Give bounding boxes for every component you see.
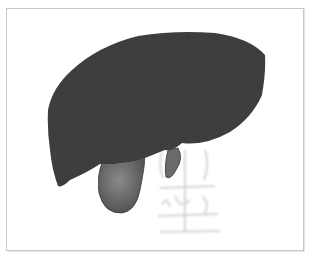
liver <box>48 32 265 186</box>
gallbladder <box>98 158 145 213</box>
liver-volume-render <box>0 0 309 255</box>
vessel-stub <box>165 148 180 178</box>
